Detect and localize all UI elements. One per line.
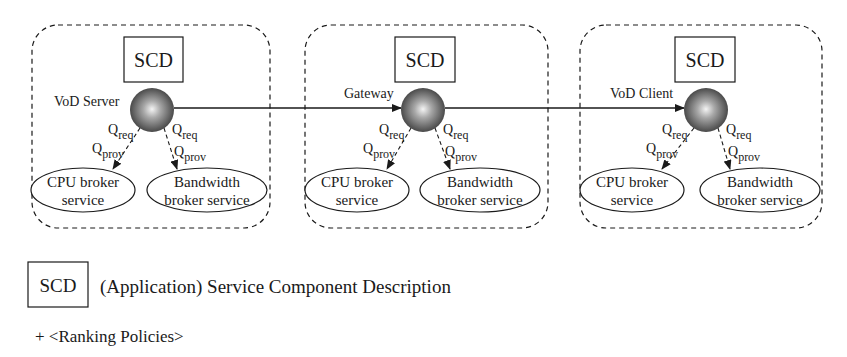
legend-scd-label: SCD [40,275,77,296]
q-prov-label: Qprov [445,144,477,164]
component-sphere [684,88,728,132]
node-label: Gateway [344,86,394,101]
q-req-label: Qreq [172,122,197,142]
service-label-line2: broker service [437,192,523,208]
component-sphere [130,88,174,132]
service-label-line1: CPU broker [596,174,668,190]
service-cpu-broker: CPU brokerserviceQreqQprov [31,122,140,212]
service-label-line1: CPU broker [47,174,119,190]
nodes-layer: SCDVoD ServerCPU brokerserviceQreqQprovB… [31,25,822,228]
q-prov-label: Qprov [646,141,678,161]
q-req-label: Qreq [379,122,404,142]
legend-description: (Application) Service Component Descript… [100,276,451,298]
component-sphere [401,88,445,132]
service-label-line1: Bandwidth [174,174,240,190]
q-prov-label: Qprov [174,144,206,164]
node-vod-client: SCDVoD ClientCPU brokerserviceQreqQprovB… [580,25,822,228]
legend: SCD (Application) Service Component Desc… [28,262,451,346]
service-cpu-broker: CPU brokerserviceQreqQprov [580,122,694,212]
q-req-label: Qreq [726,122,751,142]
service-label-line2: service [336,192,379,208]
service-label-line1: Bandwidth [727,174,793,190]
service-label-line2: service [62,192,105,208]
q-req-label: Qreq [662,122,687,142]
service-label-line2: service [611,192,654,208]
service-bandwidth-broker: Bandwidthbroker serviceQreqQprov [700,122,820,212]
node-label: VoD Server [54,94,120,109]
q-req-label: Qreq [108,122,133,142]
node-gateway: SCDGatewayCPU brokerserviceQreqQprovBand… [305,25,548,228]
service-label-line2: broker service [164,192,250,208]
service-composition-diagram: SCDVoD ServerCPU brokerserviceQreqQprovB… [0,0,847,357]
service-cpu-broker: CPU brokerserviceQreqQprov [305,122,411,212]
q-prov-label: Qprov [363,141,395,161]
scd-label: SCD [134,49,173,71]
legend-ranking-policies: + <Ranking Policies> [35,327,184,346]
service-label-line2: broker service [717,192,803,208]
q-req-label: Qreq [443,122,468,142]
q-prov-label: Qprov [728,144,760,164]
scd-label: SCD [406,49,445,71]
node-vod-server: SCDVoD ServerCPU brokerserviceQreqQprovB… [31,25,270,228]
scd-label: SCD [686,49,725,71]
service-bandwidth-broker: Bandwidthbroker serviceQreqQprov [147,122,267,212]
q-prov-label: Qprov [92,141,124,161]
service-label-line1: Bandwidth [447,174,513,190]
service-bandwidth-broker: Bandwidthbroker serviceQreqQprov [420,122,540,212]
service-label-line1: CPU broker [321,174,393,190]
node-label: VoD Client [610,86,673,101]
